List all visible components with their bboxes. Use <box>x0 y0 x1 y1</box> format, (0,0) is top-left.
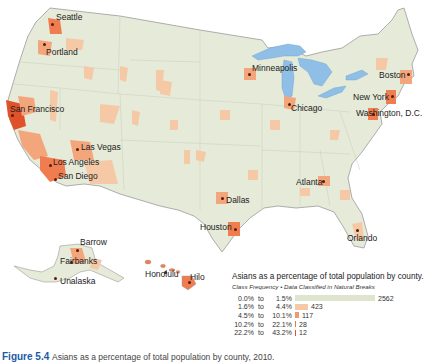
legend-title: Asians as a percentage of total populati… <box>232 272 444 281</box>
city-marker <box>54 178 57 181</box>
city-marker <box>54 277 57 280</box>
legend-to-word: to <box>254 303 268 310</box>
city-label: San Francisco <box>10 105 64 114</box>
city-marker <box>76 249 79 252</box>
city-label: Houston <box>200 223 232 232</box>
legend-from: 10.2% <box>232 321 254 328</box>
legend-row: 1.6% to 4.4% 423 <box>232 303 444 312</box>
city-marker <box>356 229 359 232</box>
legend-from: 4.5% <box>232 312 254 319</box>
legend-count: 117 <box>302 312 313 319</box>
city-label: Minneapolis <box>252 64 297 73</box>
city-label: Las Vegas <box>81 143 121 152</box>
city-label: Honolulu <box>145 270 179 279</box>
legend-to: 43.2% <box>268 329 292 336</box>
city-marker <box>51 23 54 26</box>
city-marker <box>49 164 52 167</box>
city-marker <box>234 228 237 231</box>
city-label: Orlando <box>347 234 377 243</box>
caption-label: Figure 5.4 <box>2 351 49 362</box>
city-label: Portland <box>46 48 78 57</box>
city-label: Boston <box>379 71 405 80</box>
city-label: Fairbanks <box>60 257 97 266</box>
figure-caption: Figure 5.4 Asians as a percentage of tot… <box>2 351 274 362</box>
legend-row: 0.0% to 1.5% 2562 <box>232 294 444 303</box>
city-marker <box>76 148 79 151</box>
legend-to: 4.4% <box>268 303 292 310</box>
legend-bar <box>295 295 375 301</box>
city-label: Atlanta <box>296 178 322 187</box>
city-label: San Diego <box>58 172 98 181</box>
legend-to-word: to <box>254 321 268 328</box>
legend-to: 22.1% <box>268 321 292 328</box>
legend-to-word: to <box>254 312 268 319</box>
legend-to: 1.5% <box>268 295 292 302</box>
legend-row: 10.2% to 22.1% 28 <box>232 320 444 329</box>
legend-to-word: to <box>254 295 268 302</box>
legend-from: 1.6% <box>232 303 254 310</box>
legend-to-word: to <box>254 329 268 336</box>
legend-subtitle: Class Frequency • Data Classified in Nat… <box>232 283 444 290</box>
legend-from: 22.2% <box>232 329 254 336</box>
city-label: Seattle <box>56 13 82 22</box>
city-label: Hilo <box>190 273 205 282</box>
legend-bar <box>295 321 296 327</box>
caption-text: Asians as a percentage of total populati… <box>52 352 274 362</box>
city-marker <box>221 197 224 200</box>
city-label: Los Angeles <box>53 158 99 167</box>
city-label: Chicago <box>291 104 322 113</box>
city-label: Unalaska <box>60 277 95 286</box>
legend-bar <box>295 304 308 310</box>
city-marker <box>407 73 410 76</box>
legend-row: 4.5% to 10.1% 117 <box>232 311 444 320</box>
legend-to: 10.1% <box>268 312 292 319</box>
legend: Asians as a percentage of total populati… <box>232 272 444 337</box>
legend-count: 423 <box>311 303 323 310</box>
legend-count: 2562 <box>378 295 394 302</box>
legend-rows: 0.0% to 1.5% 2562 1.6% to 4.4% 423 4.5% … <box>232 294 444 337</box>
city-marker <box>43 43 46 46</box>
city-label: Barrow <box>80 238 107 247</box>
legend-row: 22.2% to 43.2% 12 <box>232 328 444 337</box>
city-label: New York <box>353 93 389 102</box>
city-marker <box>391 95 394 98</box>
legend-from: 0.0% <box>232 295 254 302</box>
city-label: Washington, D.C. <box>356 109 422 118</box>
city-marker <box>248 73 251 76</box>
legend-bar <box>295 312 299 318</box>
legend-count: 12 <box>299 329 307 336</box>
legend-count: 28 <box>299 321 307 328</box>
legend-bar <box>295 330 296 336</box>
city-label: Dallas <box>226 196 250 205</box>
